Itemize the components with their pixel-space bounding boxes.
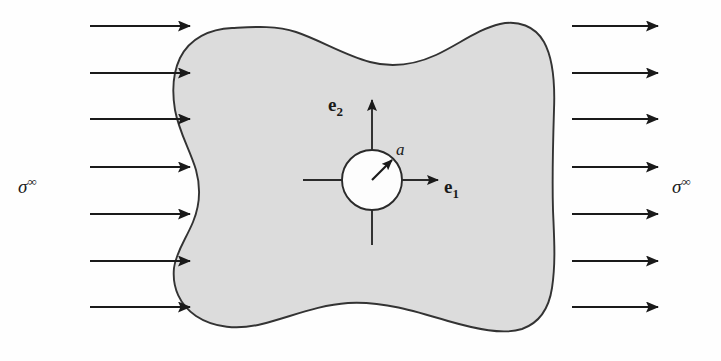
traction-arrows-right — [572, 26, 658, 307]
sigma-symbol-left: σ — [18, 176, 27, 197]
figure-canvas: σ∞ σ∞ e2 e1 a — [0, 0, 721, 361]
diagram-svg — [0, 0, 721, 361]
sigma-infinity-label-right: σ∞ — [672, 174, 691, 198]
basis-vector-label-e1: e1 — [444, 176, 459, 202]
hole-radius-label: a — [396, 140, 405, 160]
basis-vector-label-e2: e2 — [328, 94, 343, 120]
e1-subscript: 1 — [452, 186, 459, 201]
sigma-symbol-right: σ — [672, 176, 681, 197]
infinity-superscript-left: ∞ — [27, 174, 36, 189]
sigma-infinity-label-left: σ∞ — [18, 174, 37, 198]
e2-subscript: 2 — [336, 104, 343, 119]
infinity-superscript-right: ∞ — [681, 174, 690, 189]
